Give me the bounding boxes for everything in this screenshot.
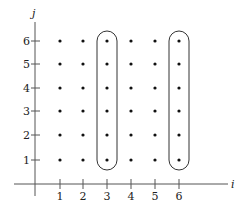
y-tick-label-6: 6 — [23, 35, 30, 48]
x-tick-label-6: 6 — [176, 190, 183, 203]
y-tick-label-2: 2 — [23, 129, 30, 142]
x-tick-label-3: 3 — [104, 190, 111, 203]
x-tick-label-5: 5 — [152, 190, 159, 203]
y-tick-label-4: 4 — [23, 82, 30, 95]
lattice-points — [58, 39, 180, 161]
lattice-diagram: j i 1 2 3 4 5 6 6 5 4 3 2 1 — [0, 0, 251, 211]
column-3-highlight-loop — [97, 31, 117, 170]
y-tick-label-1: 1 — [23, 154, 30, 167]
x-tick-label-1: 1 — [57, 190, 64, 203]
x-tick-label-2: 2 — [80, 190, 87, 203]
x-tick-label-4: 4 — [128, 190, 135, 203]
y-axis-label: j — [29, 7, 36, 20]
y-tick-label-3: 3 — [23, 105, 30, 118]
y-tick-label-5: 5 — [23, 58, 30, 71]
column-6-highlight-loop — [169, 31, 189, 170]
x-axis-label: i — [231, 178, 235, 191]
